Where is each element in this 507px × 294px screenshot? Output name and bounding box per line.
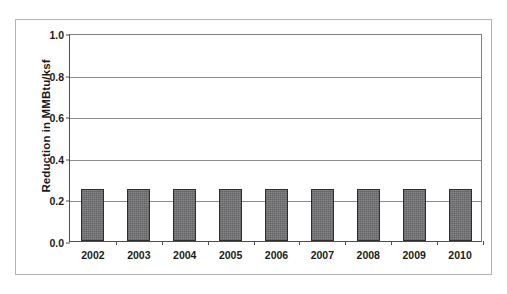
x-tick-mark — [208, 241, 209, 245]
bar-2005 — [219, 189, 242, 241]
y-tick-mark — [66, 243, 70, 244]
x-tick-mark — [254, 241, 255, 245]
x-tick-label-2006: 2006 — [265, 249, 288, 261]
bar-series — [70, 35, 481, 241]
y-tick-label: 0.8 — [49, 71, 64, 83]
x-tick-label-2004: 2004 — [173, 249, 196, 261]
bar-2007 — [311, 189, 334, 241]
x-tick-mark — [162, 241, 163, 245]
y-tick-label: 0.0 — [49, 237, 64, 249]
bar-2008 — [357, 189, 380, 241]
bar-2009 — [403, 189, 426, 241]
y-tick-label: 1.0 — [49, 29, 64, 41]
x-tick-label-2009: 2009 — [402, 249, 425, 261]
x-tick-mark — [483, 241, 484, 245]
x-tick-mark — [299, 241, 300, 245]
bar-2010 — [449, 189, 472, 241]
x-tick-label-2002: 2002 — [81, 249, 104, 261]
y-tick-label: 0.4 — [49, 154, 64, 166]
bar-2004 — [173, 189, 196, 241]
bar-chart: Reduction in MMBtu/ksf 0.00.20.40.60.81.… — [16, 20, 493, 276]
x-tick-label-2010: 2010 — [448, 249, 471, 261]
x-tick-mark — [437, 241, 438, 245]
x-tick-label-2007: 2007 — [311, 249, 334, 261]
x-tick-label-2003: 2003 — [127, 249, 150, 261]
x-tick-label-2008: 2008 — [357, 249, 380, 261]
chart-frame: Reduction in MMBtu/ksf 0.00.20.40.60.81.… — [15, 19, 492, 275]
x-tick-label-2005: 2005 — [219, 249, 242, 261]
bar-2006 — [265, 189, 288, 241]
x-tick-mark — [345, 241, 346, 245]
y-tick-label: 0.6 — [49, 112, 64, 124]
y-tick-label: 0.2 — [49, 195, 64, 207]
bar-2002 — [81, 189, 104, 241]
x-tick-mark — [116, 241, 117, 245]
plot-area: 0.00.20.40.60.81.0 200220032004200520062… — [69, 34, 482, 242]
y-axis-title: Reduction in MMBtu/ksf — [40, 36, 52, 216]
x-tick-mark — [391, 241, 392, 245]
bar-2003 — [127, 189, 150, 241]
